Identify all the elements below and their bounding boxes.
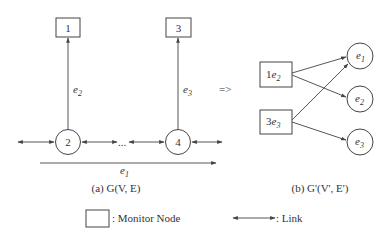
edge-e3-label: e3 xyxy=(183,83,192,98)
legend-link-label: : Link xyxy=(276,212,303,224)
edge-1e2-to-e1 xyxy=(292,57,346,73)
monitor-node-3-label: 3 xyxy=(176,22,182,34)
diagram-canvas: 1 3 e2 e3 2 4 ... e1 (a) xyxy=(0,0,388,239)
node-2-label: 2 xyxy=(65,136,71,148)
right-graph: 1e2 3e3 e1 e2 e3 (b) G'(V', E') xyxy=(260,43,373,195)
ellipsis: ... xyxy=(118,136,127,148)
path-node-e3: e3 xyxy=(347,129,373,155)
monitor-node-3: 3 xyxy=(166,18,191,37)
caption-a: (a) G(V, E) xyxy=(92,182,141,195)
path-node-e2: e2 xyxy=(347,86,373,112)
monitor-node-1-label: 1 xyxy=(65,22,71,34)
path-node-e1: e1 xyxy=(347,43,373,69)
edge-1e2-to-e2 xyxy=(292,75,346,97)
node-2: 2 xyxy=(56,130,81,155)
monitor-node-1: 1 xyxy=(56,18,80,37)
transform-symbol: => xyxy=(219,83,231,95)
legend-monitor-node-swatch xyxy=(86,210,109,227)
left-graph: 1 3 e2 e3 2 4 ... e1 (a) xyxy=(18,18,222,195)
monitor-node-3e3: 3e3 xyxy=(260,110,292,134)
node-4: 4 xyxy=(166,130,191,155)
edge-e1-label: e1 xyxy=(120,164,129,179)
legend: : Monitor Node : Link xyxy=(86,210,303,227)
caption-b: (b) G'(V', E') xyxy=(292,182,349,195)
edge-e2-label: e2 xyxy=(73,83,82,98)
edge-3e3-to-e1 xyxy=(292,64,348,120)
legend-monitor-node-label: : Monitor Node xyxy=(112,212,181,224)
edge-3e3-to-e3 xyxy=(292,122,346,140)
node-4-label: 4 xyxy=(175,136,181,148)
monitor-node-1e2: 1e2 xyxy=(260,62,292,87)
